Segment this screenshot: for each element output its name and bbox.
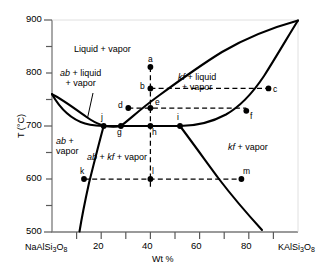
x-endpoint-right-sub2: 8 [311,246,315,253]
region-label-ab-vapor: ab + vapor [56,136,79,156]
x-endpoint-left-pre: NaAlSi [25,242,53,252]
tie-lines [84,88,269,179]
x-endpoint-right-pre: KAlSi [278,242,300,252]
point-i [177,123,183,129]
y-tick-800: 800 [26,67,42,78]
x-tick-40: 40 [142,241,153,252]
point-label-g: g [117,128,122,138]
region-kf-vapor-ital: kf [228,142,235,152]
region-kf-liquid-ital: kf [178,72,185,82]
phase-diagram-figure: 900 800 700 600 500 T (°C) 20 40 60 80 N… [0,0,332,268]
x-tick-60: 60 [191,241,202,252]
x-endpoint-left-sub2: 8 [63,246,67,253]
y-tick-600: 600 [26,173,42,184]
region-kf-vapor-rest: + vapor [235,142,268,152]
region-label-ab-kf-vapor: ab + kf + vapor [87,152,147,162]
region-label-liquid-vapor: Liquid + vapor [74,44,131,54]
region-label-kf-liquid-vapor: kf + liquid + vapor [178,72,216,92]
x-endpoint-left-sub1: 3 [53,246,57,253]
region-label-ab-liquid-vapor: ab + liquid + vapor [60,68,101,88]
point-label-i: i [177,113,179,123]
point-label-b: b [140,82,145,92]
y-tick-900: 900 [26,14,42,25]
x-tick-20: 20 [93,241,104,252]
region-kf-liquid-line2: + vapor [182,82,212,92]
point-c [266,86,272,92]
region-ab-liquid-ital: ab [60,68,70,78]
point-e [148,105,154,111]
y-tick-500: 500 [26,226,42,237]
region-ab-vapor-ital: ab [56,136,66,146]
point-label-f: f [250,112,252,122]
point-label-h: h [152,128,157,138]
point-label-a: a [148,55,153,65]
leader-line-ab-liquid [88,93,94,118]
y-axis-title-text: T (°C) [16,114,26,138]
point-k [81,176,87,182]
y-axis-ticks [44,20,52,232]
point-label-l: l [152,167,154,177]
point-f [243,108,249,114]
region-ab-kf-ital1: ab [87,152,97,162]
point-label-d: d [118,101,123,111]
x-endpoint-left: NaAlSi3O8 [25,242,67,252]
point-b [148,86,154,92]
point-j [101,123,107,129]
region-ab-kf-mid: + [97,152,107,162]
point-d [125,105,131,111]
region-ab-kf-end: + vapor [114,152,147,162]
x-axis-ticks [77,232,274,239]
x-tick-80: 80 [241,241,252,252]
region-ab-vapor-rest: + [66,136,74,146]
liquidus-left-curve [52,94,121,126]
x-endpoint-right-sub1: 3 [300,246,304,253]
x-axis-title: Wt % [152,254,174,264]
region-kf-liquid-rest: + liquid [185,72,216,82]
x-endpoint-right-mid: O [304,242,311,252]
point-label-j: j [101,113,103,123]
point-a [148,64,154,70]
point-label-k: k [80,167,84,177]
point-m [239,176,245,182]
point-l [148,176,154,182]
phase-diagram-plot [0,0,332,268]
y-tick-700: 700 [26,120,42,131]
region-ab-liquid-line2: + vapor [66,78,96,88]
point-label-m: m [243,167,250,177]
point-label-e: e [155,98,160,108]
x-endpoint-right: KAlSi3O8 [278,242,315,252]
region-ab-liquid-rest: + liquid [70,68,101,78]
region-label-kf-vapor: kf + vapor [228,142,268,152]
region-ab-vapor-line2: vapor [56,146,79,156]
y-axis-title: T (°C) [16,114,26,138]
point-label-c: c [273,85,277,95]
